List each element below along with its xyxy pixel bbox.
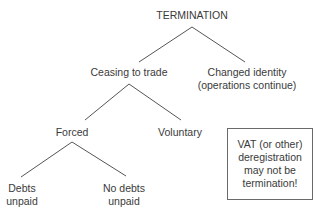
node-debts-unpaid-line-2: unpaid [6,195,38,208]
edge-ceasing-voluntary [129,84,181,120]
node-forced: Forced [56,126,89,139]
note-line-1: VAT (or other) [238,138,303,151]
node-ceasing-to-trade: Ceasing to trade [90,66,167,79]
node-no-debts-unpaid-line-2: unpaid [103,195,145,208]
node-changed-identity-line-1: Changed identity [198,66,297,79]
node-no-debts-unpaid-line-1: No debts [103,182,145,195]
node-no-debts-unpaid: No debts unpaid [103,182,145,207]
node-voluntary: Voluntary [158,126,202,139]
edge-ceasing-forced [85,84,129,120]
node-changed-identity: Changed identity (operations continue) [198,66,297,91]
note-box: VAT (or other) deregistration may not be… [227,128,313,200]
note-line-4: termination! [238,177,303,190]
edge-forced-no-debts-unpaid [72,142,126,176]
node-debts-unpaid: Debts unpaid [6,182,38,207]
node-changed-identity-line-2: (operations continue) [198,79,297,92]
edge-termination-changed [192,27,245,62]
edge-termination-ceasing [139,27,192,62]
note-box-text: VAT (or other) deregistration may not be… [238,138,303,190]
node-termination: TERMINATION [156,9,228,22]
note-line-2: deregistration [238,151,303,164]
edge-forced-debts-unpaid [21,142,72,177]
node-debts-unpaid-line-1: Debts [6,182,38,195]
note-line-3: may not be [238,164,303,177]
